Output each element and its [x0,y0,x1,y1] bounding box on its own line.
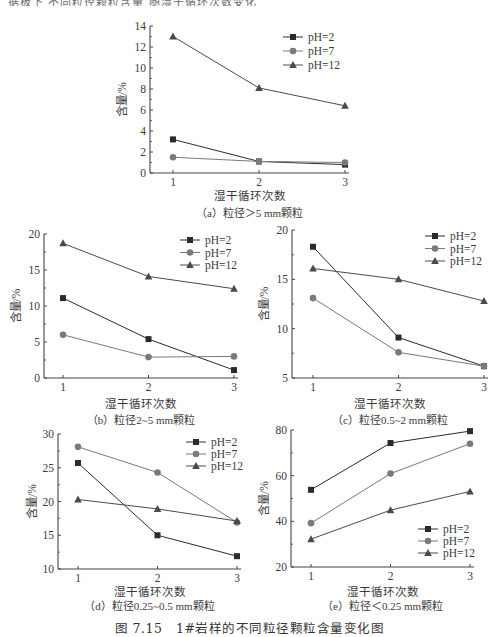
x-axis-label: 湿干循环次数 [347,585,419,598]
series-line [311,431,470,490]
chart-e-particles-lt-0.25mm: 20406080123湿干循环次数含量/%（e）粒径＜0.25 mm颗粒pH=2… [0,0,499,637]
data-point-square-icon [308,487,314,493]
x-tick-label: 2 [388,570,394,582]
legend-entry: pH=12 [418,547,475,560]
y-tick-label: 20 [276,561,288,573]
data-point-circle-icon [467,440,474,447]
legend-label: pH=12 [443,547,475,560]
data-point-circle-icon [387,470,394,477]
data-point-square-icon [388,440,394,446]
y-axis-label: 含量/% [257,481,270,516]
y-tick-label: 40 [276,515,288,527]
figure-caption: 图 7.15 1#岩样的不同粒径颗粒含量变化图 [0,618,499,637]
y-tick-label: 80 [276,424,288,436]
y-tick-label: 60 [276,470,288,482]
series-ph-7 [308,440,474,526]
x-tick-label: 3 [467,570,473,582]
legend-square-icon [425,526,431,532]
data-point-triangle-icon [466,487,474,494]
legend-circle-icon [425,538,432,545]
series-ph-2 [308,428,473,493]
x-tick-label: 1 [308,570,314,582]
data-point-square-icon [467,428,473,434]
subfigure-title: （e）粒径＜0.25 mm颗粒 [322,599,443,612]
data-point-circle-icon [308,520,315,527]
